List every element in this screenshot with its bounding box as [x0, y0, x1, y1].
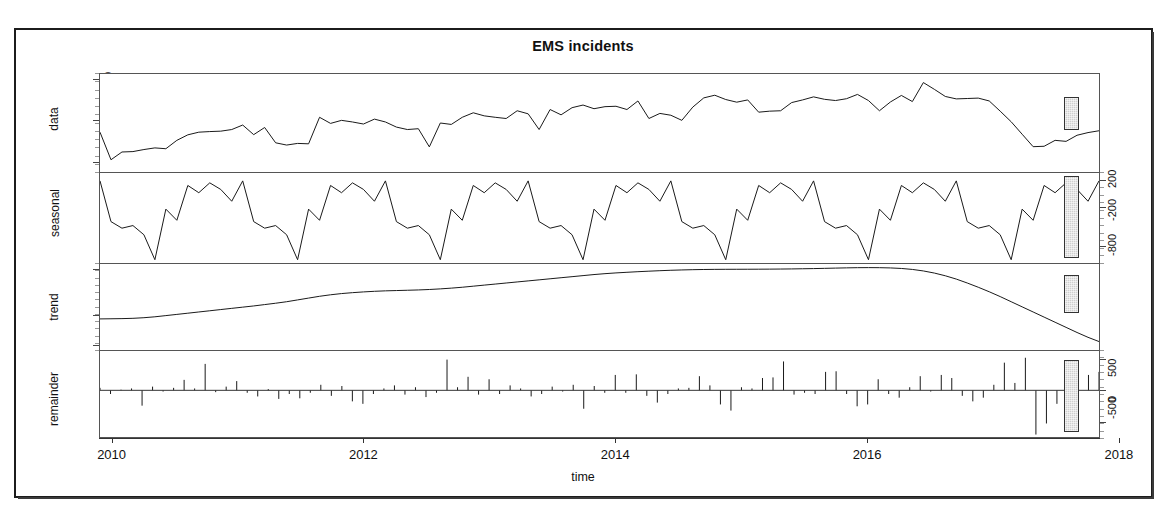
y-minor-tick [1100, 438, 1104, 439]
y-minor-tick [1100, 379, 1104, 380]
y-tick-mark [93, 315, 99, 316]
ytick-seasonal-neg200: -200 [1106, 199, 1118, 221]
y-minor-tick [1100, 180, 1104, 181]
y-minor-tick [1100, 255, 1104, 256]
panel-seasonal-svg [100, 173, 1099, 263]
y-minor-tick [95, 314, 99, 315]
y-minor-tick [1100, 202, 1104, 203]
x-tick-label: 2018 [1104, 447, 1133, 462]
panel-trend [99, 263, 1100, 350]
ytick-remainder-500: 500 [1106, 359, 1118, 377]
y-minor-tick [1100, 210, 1104, 211]
data-series-line [100, 83, 1099, 160]
x-tick [615, 438, 616, 443]
range-bar-remainder [1064, 360, 1079, 432]
x-tick [363, 438, 364, 443]
y-minor-tick [95, 98, 99, 99]
y-minor-tick [1100, 401, 1104, 402]
y-minor-tick [95, 81, 99, 82]
panel-trend-svg [100, 264, 1099, 350]
y-minor-tick [95, 328, 99, 329]
y-minor-tick [95, 263, 99, 264]
y-minor-tick [1100, 365, 1104, 366]
y-minor-tick [1100, 431, 1104, 432]
panel-seasonal [99, 172, 1100, 263]
y-minor-tick [1100, 195, 1104, 196]
y-minor-tick [95, 156, 99, 157]
x-tick-label: 2014 [601, 447, 630, 462]
y-minor-tick [95, 147, 99, 148]
y-minor-tick [95, 172, 99, 173]
y-minor-tick [1100, 409, 1104, 410]
x-tick-label: 2012 [349, 447, 378, 462]
y-minor-tick [95, 278, 99, 279]
y-minor-tick [1100, 248, 1104, 249]
y-minor-tick [1100, 357, 1104, 358]
range-bar-data [1064, 97, 1079, 130]
y-minor-tick [95, 114, 99, 115]
screenshot-page: EMS incidents data seasonal trend remain… [0, 0, 1166, 530]
y-minor-tick [95, 350, 99, 351]
panel-remainder [99, 350, 1100, 438]
y-minor-tick [1100, 218, 1104, 219]
y-tick-mark [1100, 207, 1106, 208]
stl-decomposition-plot [99, 73, 1100, 438]
y-tick-mark [93, 79, 99, 80]
ytick-seasonal-200: 200 [1106, 170, 1118, 188]
y-minor-tick [95, 164, 99, 165]
x-tick [1119, 438, 1120, 443]
y-minor-tick [95, 343, 99, 344]
y-minor-tick [1100, 172, 1104, 173]
remainder-series-bars [100, 358, 1099, 435]
x-tick-label: 2016 [853, 447, 882, 462]
y-tick-mark [93, 120, 99, 121]
y-minor-tick [1100, 416, 1104, 417]
x-axis-title: time [0, 470, 1166, 484]
panel-label-remainder: remainder [47, 359, 61, 439]
seasonal-series-line [100, 181, 1099, 260]
y-minor-tick [95, 106, 99, 107]
y-minor-tick [1100, 233, 1104, 234]
y-minor-tick [95, 73, 99, 74]
panel-data-svg [100, 74, 1099, 172]
y-tick-mark [93, 162, 99, 163]
y-minor-tick [1100, 394, 1104, 395]
y-minor-tick [95, 321, 99, 322]
y-minor-tick [95, 285, 99, 286]
y-minor-tick [95, 307, 99, 308]
y-minor-tick [1100, 423, 1104, 424]
y-minor-tick [95, 270, 99, 271]
trend-series-line [100, 268, 1099, 342]
y-tick-mark [1100, 359, 1106, 360]
x-tick-label: 2010 [97, 447, 126, 462]
y-minor-tick [1100, 225, 1104, 226]
y-minor-tick [95, 123, 99, 124]
y-minor-tick [1100, 372, 1104, 373]
panel-label-data: data [47, 99, 61, 139]
y-tick-mark [1100, 390, 1106, 391]
y-minor-tick [1100, 240, 1104, 241]
ytick-remainder-neg500: -500 [1106, 397, 1118, 419]
y-minor-tick [1100, 387, 1104, 388]
y-minor-tick [1100, 187, 1104, 188]
y-minor-tick [95, 139, 99, 140]
panel-label-trend: trend [47, 283, 61, 331]
y-minor-tick [95, 336, 99, 337]
x-axis-line [99, 438, 1100, 439]
x-tick [112, 438, 113, 443]
y-minor-tick [95, 90, 99, 91]
y-minor-tick [1100, 350, 1104, 351]
y-tick-mark [93, 345, 99, 346]
range-bar-seasonal [1064, 176, 1079, 258]
panel-data [99, 73, 1100, 172]
y-minor-tick [95, 299, 99, 300]
chart-title: EMS incidents [0, 38, 1166, 54]
y-minor-tick [1100, 263, 1104, 264]
range-bar-trend [1064, 275, 1079, 313]
ytick-seasonal-neg800: -800 [1106, 234, 1118, 256]
x-tick [867, 438, 868, 443]
y-minor-tick [95, 131, 99, 132]
panel-label-seasonal: seasonal [48, 178, 62, 248]
y-minor-tick [95, 292, 99, 293]
panel-remainder-svg [100, 351, 1099, 437]
